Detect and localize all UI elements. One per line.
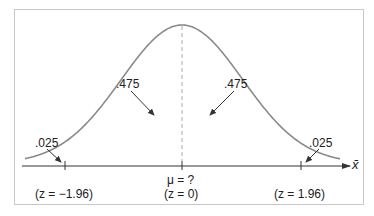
axis-label-xbar: x̄ [352, 158, 359, 172]
label-mean: μ = ? [167, 173, 194, 187]
arrow-right-center [210, 91, 234, 115]
label-right-z: (z = 1.96) [274, 187, 325, 201]
label-left-center-area: .475 [116, 77, 139, 91]
label-right-tail-area: .025 [309, 136, 332, 150]
label-left-tail-area: .025 [35, 136, 58, 150]
arrow-left-center [131, 91, 154, 115]
arrow-right-tail [306, 149, 319, 162]
label-center-z: (z = 0) [164, 187, 198, 201]
label-left-z: (z = −1.96) [35, 187, 93, 201]
label-right-center-area: .475 [224, 77, 247, 91]
arrow-left-tail [47, 149, 61, 162]
